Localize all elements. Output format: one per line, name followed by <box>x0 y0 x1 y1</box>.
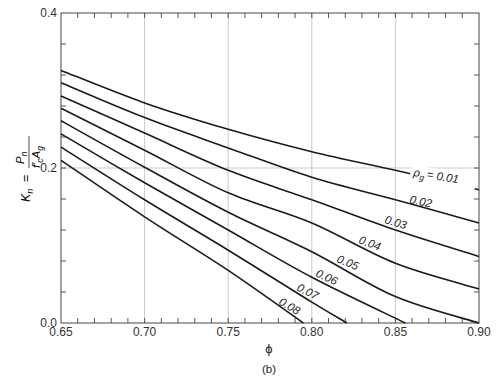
y-axis-equals: = <box>19 175 33 182</box>
curve-label-0.03: 0.03 <box>383 213 408 231</box>
curve-label-0.02: 0.02 <box>409 193 434 210</box>
x-tick-0.70: 0.70 <box>133 325 157 339</box>
curve-0.07 <box>61 147 347 323</box>
x-tick-0.75: 0.75 <box>217 325 241 339</box>
y-axis-lhs: Kn <box>19 189 35 202</box>
curve-0.05 <box>61 121 479 323</box>
x-tick-0.65: 0.65 <box>49 325 73 339</box>
y-axis-numerator: Pn <box>14 151 29 164</box>
curve-0.06 <box>61 134 405 323</box>
x-axis-title: ϕ <box>265 341 272 356</box>
x-tick-labels: 0.65 0.70 0.75 0.80 0.85 0.90 <box>49 325 491 339</box>
chart-svg: 0.4 0.2 0.0 0.65 0.70 0.75 0.80 0.85 0.9… <box>0 0 501 382</box>
x-tick-0.80: 0.80 <box>300 325 324 339</box>
y-tick-labels: 0.4 0.2 0.0 <box>40 6 57 330</box>
curve-label-0.04: 0.04 <box>357 234 382 253</box>
figure-caption: (b) <box>262 363 276 375</box>
curve-labels: ρg= 0.01 0.02 0.03 0.04 0.05 0.06 0.07 0… <box>277 165 477 318</box>
x-tick-0.90: 0.90 <box>467 325 491 339</box>
y-tick-0.4: 0.4 <box>40 6 57 20</box>
x-tick-0.85: 0.85 <box>384 325 408 339</box>
curve-label-0.05: 0.05 <box>335 253 361 273</box>
